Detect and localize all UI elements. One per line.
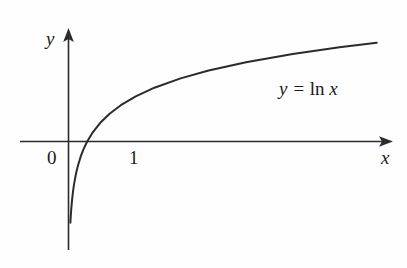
equation-function: ln [310,78,325,99]
equation-argument: x [329,78,337,99]
y-axis-label: y [46,29,54,48]
ln-curve [70,43,376,223]
curve-equation-label: y = ln x [279,79,338,98]
x-tick-label-0: 0 [47,148,57,167]
x-axis-label: x [381,148,389,167]
plot-area [0,0,407,268]
x-tick-label-1: 1 [129,148,139,167]
figure-canvas: y x 0 1 y = ln x [0,0,407,268]
equation-lhs: y = [279,78,305,99]
